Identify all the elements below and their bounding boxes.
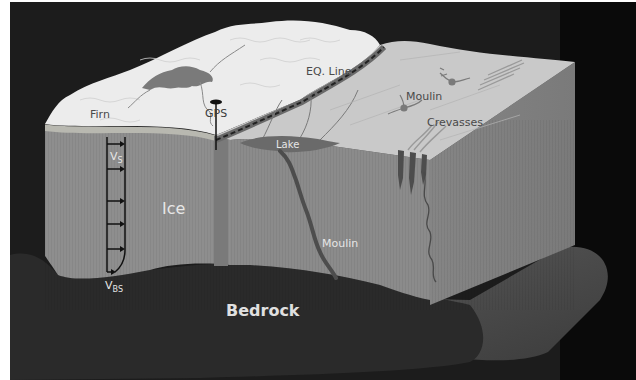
gps-column xyxy=(214,136,228,266)
label-eq-line: EQ. Line xyxy=(306,65,352,78)
label-lake: Lake xyxy=(276,139,299,150)
label-moulin-surface: Moulin xyxy=(406,90,442,103)
label-gps: GPS xyxy=(205,107,227,120)
label-crevasses: Crevasses xyxy=(427,116,483,129)
label-ice: Ice xyxy=(162,199,185,218)
label-bedrock: Bedrock xyxy=(226,301,300,320)
ice-sheet-diagram: Firn GPS EQ. Line Moulin Crevasses Lake … xyxy=(0,0,636,380)
label-firn: Firn xyxy=(90,108,110,121)
label-moulin-deep: Moulin xyxy=(322,237,358,250)
